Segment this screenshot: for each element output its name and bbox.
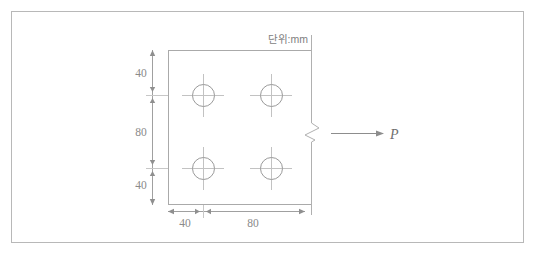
engineering-diagram: 40 80 40 40 80 P 단위:mm [0,0,536,263]
unit-note-label: 단위:mm [268,33,309,45]
vertical-dimension-label-3: 40 [135,179,147,191]
load-label: P [389,127,399,142]
horizontal-dimension-label-1: 40 [179,217,191,229]
horizontal-dimension-label-2: 80 [247,217,259,229]
vertical-dimension-label-2: 80 [135,126,147,138]
vertical-dimension-label-1: 40 [135,67,147,79]
figure-frame-border [12,12,524,243]
figure-container: 40 80 40 40 80 P 단위:mm [0,0,536,263]
